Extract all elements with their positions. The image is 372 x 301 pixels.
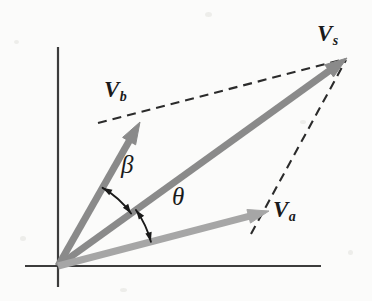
vector-label-vb: Vb [104,78,127,104]
vector-shaft-vs [58,69,332,266]
vector-label-vb-sub: b [120,89,127,104]
vector-vs [58,58,347,266]
angle-arc-beta [103,188,131,214]
vector-label-vs-base: V [317,21,332,46]
vector-label-vs: Vs [317,22,338,48]
angle-arrowhead-start-theta [136,210,144,220]
angle-label-beta: β [121,152,133,177]
dashed-line-vb-to-vs [98,59,345,123]
vector-arrows [58,58,347,266]
vector-label-vs-sub: s [333,33,338,48]
angle-arc-theta [136,210,152,242]
vector-label-vb-base: V [104,77,119,102]
vector-label-va-base: V [273,197,288,222]
vector-va [58,210,269,266]
angle-label-theta: θ [172,184,184,209]
dashed-line-va-to-vs [251,60,346,234]
vector-diagram-figure: Vs Vb Va β θ [0,0,372,301]
vector-label-va-sub: a [289,209,296,224]
vector-label-va: Va [273,198,296,224]
vector-head-va [247,210,269,224]
vector-shaft-va [58,216,252,266]
